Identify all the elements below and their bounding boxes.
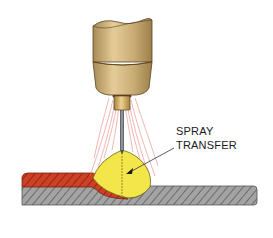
label-line-2: TRANSFER xyxy=(176,139,237,151)
torch-nozzle xyxy=(93,19,152,96)
label-line-1: SPRAY xyxy=(176,125,214,137)
spray-transfer-diagram: SPRAY TRANSFER xyxy=(0,0,273,238)
electrode-wire xyxy=(120,108,124,150)
